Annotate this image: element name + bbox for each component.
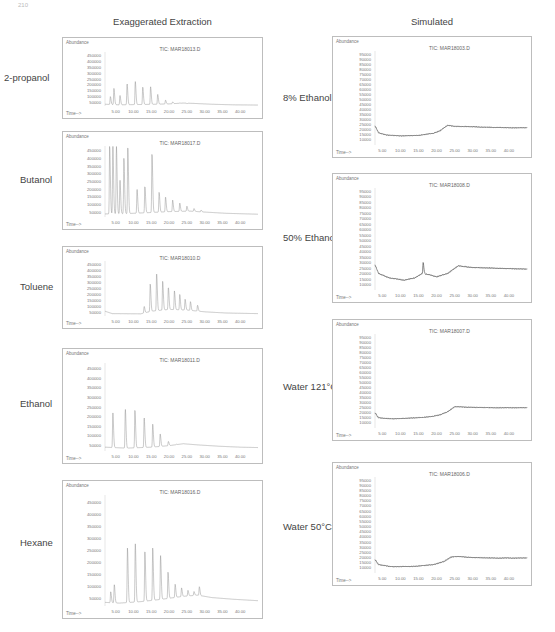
svg-text:100000: 100000 (87, 433, 102, 438)
svg-text:300000: 300000 (87, 171, 102, 176)
svg-text:50000: 50000 (89, 596, 101, 601)
svg-text:25.00: 25.00 (182, 109, 193, 114)
tic-trace (105, 82, 258, 105)
svg-text:65000: 65000 (359, 82, 371, 87)
row-label-water-121c: Water 121°C (283, 381, 337, 392)
svg-text:300000: 300000 (87, 280, 102, 285)
svg-text:10.00: 10.00 (395, 293, 406, 298)
chromatogram-2-propanol: AbundanceTime-->TIC: MAR18013.D500001000… (62, 37, 263, 119)
svg-text:75000: 75000 (359, 355, 371, 360)
svg-text:50000: 50000 (359, 524, 371, 529)
svg-text:30.00: 30.00 (199, 220, 210, 225)
svg-text:35000: 35000 (359, 395, 371, 400)
svg-text:150000: 150000 (87, 194, 102, 199)
svg-text:15.00: 15.00 (146, 220, 157, 225)
svg-text:55000: 55000 (359, 519, 371, 524)
svg-text:90000: 90000 (359, 483, 371, 488)
svg-text:40.00: 40.00 (504, 293, 515, 298)
svg-text:15.00: 15.00 (413, 293, 424, 298)
svg-text:5.00: 5.00 (112, 319, 121, 324)
svg-text:20.00: 20.00 (164, 220, 175, 225)
svg-text:80000: 80000 (359, 67, 371, 72)
svg-text:20.00: 20.00 (431, 431, 442, 436)
svg-text:10.00: 10.00 (128, 109, 139, 114)
svg-text:25.00: 25.00 (182, 319, 193, 324)
svg-text:70000: 70000 (359, 360, 371, 365)
svg-text:5.00: 5.00 (112, 109, 121, 114)
svg-text:250000: 250000 (87, 179, 102, 184)
svg-text:450000: 450000 (87, 148, 102, 153)
svg-text:40.00: 40.00 (235, 454, 246, 459)
svg-text:10000: 10000 (359, 282, 371, 287)
svg-text:350000: 350000 (87, 385, 102, 390)
svg-text:40.00: 40.00 (504, 576, 515, 581)
svg-text:40000: 40000 (359, 390, 371, 395)
chromatogram-butanol: AbundanceTime-->TIC: MAR18017.D500001000… (62, 131, 263, 230)
svg-text:100000: 100000 (87, 94, 102, 99)
svg-text:150000: 150000 (87, 88, 102, 93)
svg-text:150000: 150000 (87, 298, 102, 303)
svg-text:20.00: 20.00 (164, 609, 175, 614)
svg-text:10000: 10000 (359, 137, 371, 142)
svg-text:25000: 25000 (359, 266, 371, 271)
svg-text:30000: 30000 (359, 260, 371, 265)
svg-text:450000: 450000 (87, 262, 102, 267)
svg-text:250000: 250000 (87, 405, 102, 410)
svg-text:10.00: 10.00 (128, 609, 139, 614)
chromatogram-water-121c: AbundanceTime-->TIC: MAR18007.D100001500… (332, 319, 532, 441)
svg-text:40.00: 40.00 (235, 609, 246, 614)
svg-text:5.00: 5.00 (378, 148, 387, 153)
svg-text:35.00: 35.00 (217, 454, 228, 459)
svg-text:35.00: 35.00 (486, 431, 497, 436)
svg-text:350000: 350000 (87, 65, 102, 70)
svg-text:15.00: 15.00 (413, 148, 424, 153)
column-title-exaggerated: Exaggerated Extraction (62, 16, 263, 27)
svg-text:25000: 25000 (359, 550, 371, 555)
row-label-2-propanol: 2-propanol (4, 72, 49, 83)
svg-text:30.00: 30.00 (467, 576, 478, 581)
tic-trace (105, 409, 258, 448)
svg-text:450000: 450000 (87, 500, 102, 505)
svg-text:60000: 60000 (359, 227, 371, 232)
svg-text:10.00: 10.00 (128, 220, 139, 225)
svg-text:40000: 40000 (359, 107, 371, 112)
svg-text:5.00: 5.00 (378, 576, 387, 581)
svg-text:40.00: 40.00 (235, 109, 246, 114)
svg-text:35.00: 35.00 (486, 576, 497, 581)
svg-text:50000: 50000 (359, 380, 371, 385)
svg-text:50000: 50000 (89, 210, 101, 215)
svg-text:25000: 25000 (359, 405, 371, 410)
plot-area: 5000010000015000020000025000030000035000… (63, 247, 264, 330)
svg-text:75000: 75000 (359, 498, 371, 503)
svg-text:50000: 50000 (89, 443, 101, 448)
svg-text:40.00: 40.00 (235, 220, 246, 225)
svg-text:50000: 50000 (89, 100, 101, 105)
svg-text:20.00: 20.00 (431, 576, 442, 581)
page-number: 210 (18, 2, 28, 8)
svg-text:95000: 95000 (359, 52, 371, 57)
svg-text:30000: 30000 (359, 117, 371, 122)
svg-text:40.00: 40.00 (504, 148, 515, 153)
svg-text:300000: 300000 (87, 395, 102, 400)
svg-text:45000: 45000 (359, 529, 371, 534)
svg-text:55000: 55000 (359, 375, 371, 380)
plot-area: 1000015000200002500030000350004000045000… (333, 320, 533, 442)
svg-text:150000: 150000 (87, 424, 102, 429)
chromatogram-ethanol: AbundanceTime-->TIC: MAR18011.D500001000… (62, 348, 263, 464)
chromatogram-toluene: AbundanceTime-->TIC: MAR18010.D500001000… (62, 246, 263, 329)
svg-text:5.00: 5.00 (378, 293, 387, 298)
svg-text:70000: 70000 (359, 77, 371, 82)
svg-text:35000: 35000 (359, 112, 371, 117)
svg-text:400000: 400000 (87, 268, 102, 273)
svg-text:15.00: 15.00 (413, 431, 424, 436)
svg-text:15000: 15000 (359, 277, 371, 282)
svg-text:250000: 250000 (87, 286, 102, 291)
svg-text:90000: 90000 (359, 194, 371, 199)
plot-area: 1000015000200002500030000350004000045000… (333, 174, 533, 304)
svg-text:95000: 95000 (359, 478, 371, 483)
svg-text:95000: 95000 (359, 335, 371, 340)
svg-text:20.00: 20.00 (431, 293, 442, 298)
svg-text:5.00: 5.00 (378, 431, 387, 436)
svg-text:200000: 200000 (87, 414, 102, 419)
svg-text:200000: 200000 (87, 187, 102, 192)
